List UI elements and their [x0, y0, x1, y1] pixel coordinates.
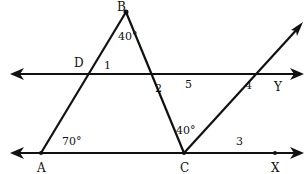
- label-point-C: C: [180, 161, 189, 174]
- point-X-dot: [273, 151, 277, 155]
- angle-3-label: 3: [236, 135, 243, 148]
- label-point-D: D: [74, 56, 84, 70]
- angle-5-label: 5: [185, 78, 192, 91]
- angle-2-label: 2: [155, 82, 162, 95]
- segment-AB: [41, 12, 126, 153]
- point-A-dot: [39, 151, 43, 155]
- label-point-Y: Y: [273, 80, 283, 94]
- point-C-dot: [182, 151, 186, 155]
- geometry-diagram: B D Y A C X 40° 70° 40° 1 2 3 4 5: [0, 0, 307, 174]
- angle-4-label: 4: [245, 79, 252, 92]
- angle-B-label: 40°: [118, 30, 138, 43]
- line-AX: [10, 147, 304, 159]
- angle-A-label: 70°: [62, 135, 82, 148]
- angle-1-label: 1: [104, 59, 111, 72]
- ray-CY: [184, 22, 303, 153]
- angle-C-label: 40°: [176, 124, 196, 137]
- label-point-A: A: [36, 161, 46, 174]
- label-point-X: X: [271, 161, 280, 174]
- label-point-B: B: [117, 0, 126, 14]
